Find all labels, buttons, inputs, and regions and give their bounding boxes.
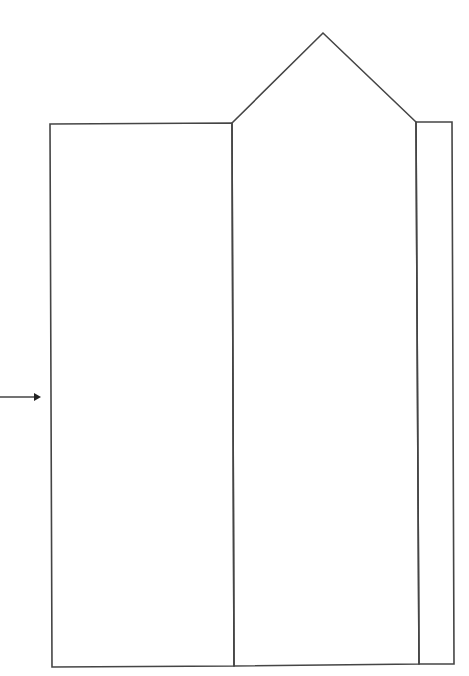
background — [0, 0, 469, 676]
panel-diagram — [0, 0, 469, 676]
